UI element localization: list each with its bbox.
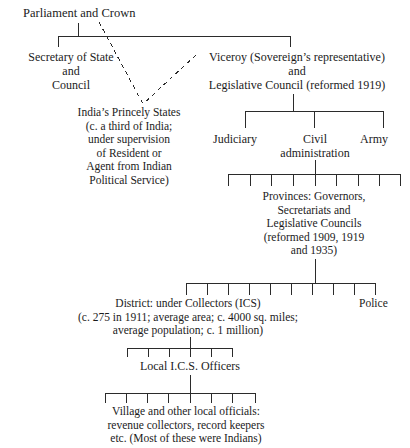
node-line: Police xyxy=(359,297,388,311)
node-line: (c. 275 in 1911; average area; c. 4000 s… xyxy=(38,311,338,325)
node-line: etc. (Most of these were Indians) xyxy=(58,432,314,446)
node-line: under supervision xyxy=(46,133,212,147)
node-line: Judiciary xyxy=(213,132,257,146)
node-line: Army xyxy=(360,132,388,146)
node-parliament-and-crown: Parliament and Crown xyxy=(23,6,135,21)
node-local-ics-officers: Local I.C.S. Officers xyxy=(119,359,261,373)
node-indias-princely-states: India’s Princely States (c. a third of I… xyxy=(46,106,212,187)
node-army: Army xyxy=(360,132,388,146)
node-line: Viceroy (Sovereign’s representative) xyxy=(185,50,409,64)
node-line: Secretariats and xyxy=(228,204,400,218)
node-line: Provinces: Governors, xyxy=(228,190,400,204)
node-line: and 1935) xyxy=(228,244,400,258)
node-secretary-of-state-and-council: Secretary of State and Council xyxy=(3,50,139,92)
node-police: Police xyxy=(359,297,388,311)
node-judiciary: Judiciary xyxy=(213,132,257,146)
node-line: Council xyxy=(3,78,139,92)
node-line: Parliament and Crown xyxy=(23,6,135,21)
node-line: Legislative Council (reformed 1919) xyxy=(185,78,409,92)
node-line: Civil xyxy=(272,132,358,146)
node-line: District: under Collectors (ICS) xyxy=(38,297,338,311)
node-line: of Resident or xyxy=(46,147,212,161)
node-line: average population; c. 1 million) xyxy=(38,324,338,338)
node-line: India’s Princely States xyxy=(46,106,212,120)
node-line: (c. a third of India; xyxy=(46,120,212,134)
node-viceroy-and-legislative-council: Viceroy (Sovereign’s representative) and… xyxy=(185,50,409,92)
node-line: and xyxy=(3,64,139,78)
node-village-and-other-local-officials: Village and other local officials: reven… xyxy=(58,405,314,446)
node-district-under-collectors: District: under Collectors (ICS) (c. 275… xyxy=(38,297,338,338)
node-civil-administration: Civil administration xyxy=(272,132,358,160)
node-line: Secretary of State xyxy=(3,50,139,64)
node-line: Local I.C.S. Officers xyxy=(119,359,261,373)
node-line: Legislative Councils xyxy=(228,217,400,231)
node-line: Village and other local officials: xyxy=(58,405,314,419)
node-line: administration xyxy=(272,146,358,160)
org-chart-diagram: Parliament and Crown Secretary of State … xyxy=(0,0,410,448)
node-line: Political Service) xyxy=(46,174,212,188)
node-line: (reformed 1909, 1919 xyxy=(228,231,400,245)
node-provinces: Provinces: Governors, Secretariats and L… xyxy=(228,190,400,258)
node-line: revenue collectors, record keepers xyxy=(58,419,314,433)
node-line: Agent from Indian xyxy=(46,160,212,174)
node-line: and xyxy=(185,64,409,78)
